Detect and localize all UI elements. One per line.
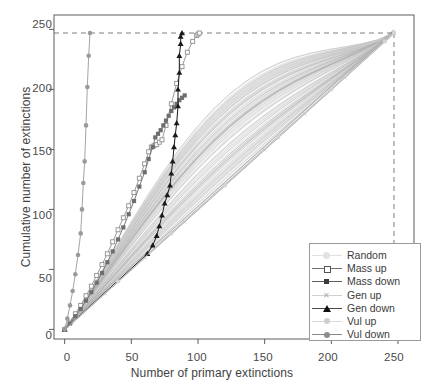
y-tick-0: 0 — [18, 329, 52, 341]
legend-key-mass-up — [310, 262, 344, 275]
legend-item-random[interactable]: Random — [310, 249, 420, 262]
filled-triangle-icon — [323, 305, 331, 312]
x-tick-150: 150 — [243, 351, 283, 363]
legend-item-gen-up[interactable]: ✕ Gen up — [310, 289, 420, 302]
extinction-cumulative-chart: 250 200 150 100 50 0 0 50 100 150 200 25… — [0, 0, 424, 391]
cross-icon: ✕ — [323, 292, 330, 299]
filled-circle-icon — [324, 332, 330, 338]
open-square-icon — [324, 266, 331, 273]
x-tick-100: 100 — [177, 351, 217, 363]
x-tick-200: 200 — [308, 351, 348, 363]
filled-square-icon — [324, 279, 329, 284]
filled-circle-icon — [324, 318, 330, 324]
legend-label-random: Random — [344, 249, 387, 262]
legend-key-vul-down — [310, 328, 344, 341]
y-axis-title: Cumulative number of extinctions — [19, 77, 33, 277]
legend-key-gen-up: ✕ — [310, 289, 344, 302]
legend-label-gen-down: Gen down — [344, 302, 395, 315]
x-tick-0: 0 — [47, 351, 87, 363]
legend-label-gen-up: Gen up — [344, 289, 381, 302]
legend-key-random — [310, 249, 344, 262]
legend-key-vul-up — [310, 315, 344, 328]
circle-icon — [323, 252, 330, 259]
legend-label-vul-down: Vul down — [344, 328, 390, 341]
x-tick-250: 250 — [374, 351, 414, 363]
y-tick-250: 250 — [18, 18, 52, 30]
legend-item-mass-down[interactable]: Mass down — [310, 275, 420, 288]
legend-key-mass-down — [310, 275, 344, 288]
legend-label-mass-up: Mass up — [344, 262, 387, 275]
legend-item-vul-down[interactable]: Vul down — [310, 328, 420, 341]
legend-item-mass-up[interactable]: Mass up — [310, 262, 420, 275]
legend-label-mass-down: Mass down — [344, 275, 400, 288]
x-axis-title: Number of primary extinctions — [0, 366, 424, 380]
x-tick-50: 50 — [112, 351, 152, 363]
legend-key-gen-down — [310, 302, 344, 315]
legend-item-vul-up[interactable]: Vul up — [310, 315, 420, 328]
legend-label-vul-up: Vul up — [344, 315, 376, 328]
legend-item-gen-down[interactable]: Gen down — [310, 302, 420, 315]
legend: Random Mass up Mass down ✕ Gen up — [309, 243, 421, 341]
